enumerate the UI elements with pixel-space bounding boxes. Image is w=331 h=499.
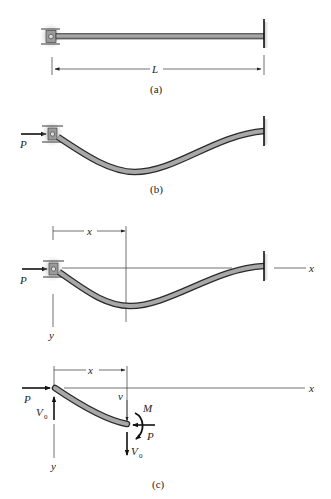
x-dim-label: x (86, 225, 92, 237)
panel-c-fbd: x v x P V 0 M P (22, 364, 314, 491)
x-axis-label: x (308, 262, 314, 274)
deflection-label: v (118, 390, 123, 402)
roller-support (41, 121, 63, 147)
shear-arrow-v0-right: V 0 (127, 432, 143, 460)
shear-arrow-v0-left: V 0 (36, 397, 54, 421)
caption-a: (a) (150, 83, 163, 96)
caption-b: (b) (150, 183, 163, 196)
fixed-support (264, 251, 269, 281)
panel-b: P (b) (19, 116, 269, 196)
y-axis-label: y (50, 460, 56, 472)
panel-c-top: x x P y (19, 225, 314, 341)
moment-label: M (142, 402, 153, 414)
load-label: P (19, 138, 27, 150)
load-right-label: P (146, 430, 154, 442)
shear-right-subscript: 0 (139, 452, 143, 460)
dimension-length: L (52, 55, 264, 75)
x-dim-label: x (87, 364, 93, 376)
load-label: P (19, 274, 27, 286)
fixed-support (264, 116, 269, 146)
fixed-support (264, 19, 269, 48)
panel-a: L (a) (40, 19, 269, 96)
shear-right-label: V (131, 445, 139, 457)
roller-support (42, 256, 64, 282)
shear-left-label: V (36, 406, 44, 418)
dimension-x: x (54, 364, 125, 385)
y-axis-label: y (48, 329, 54, 341)
column-buckling-diagram: L (a) P (b) x (0, 0, 331, 499)
caption-c: (c) (152, 478, 165, 491)
load-arrow-p-right: P (133, 425, 155, 442)
shear-left-subscript: 0 (44, 413, 48, 421)
length-label: L (151, 63, 158, 75)
dimension-x: x (53, 225, 125, 240)
x-axis-label: x (308, 382, 314, 394)
load-arrow-p-left: P (22, 388, 50, 405)
column-beam (56, 34, 264, 40)
load-left-label: P (23, 393, 31, 405)
